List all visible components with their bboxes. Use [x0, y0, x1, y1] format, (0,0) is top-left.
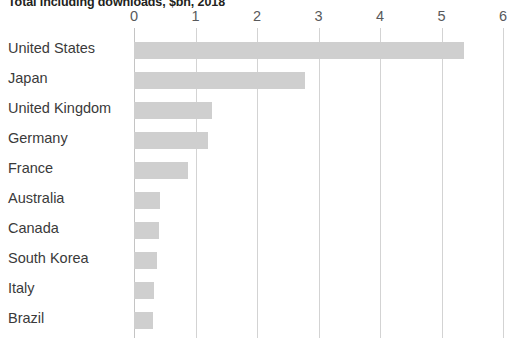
bar	[134, 312, 153, 329]
bar	[134, 72, 305, 89]
bar-row: Japan	[0, 66, 505, 96]
category-label: South Korea	[8, 250, 89, 266]
bar-row: South Korea	[0, 246, 505, 276]
category-label: Japan	[8, 70, 48, 86]
bar	[134, 102, 212, 119]
bar-row: United States	[0, 36, 505, 66]
category-label: Italy	[8, 280, 35, 296]
bar	[134, 222, 159, 239]
category-label: Germany	[8, 130, 68, 146]
category-label: France	[8, 160, 53, 176]
bar-row: Italy	[0, 276, 505, 306]
bar	[134, 192, 160, 209]
bar-row: Brazil	[0, 306, 505, 336]
category-label: United States	[8, 40, 95, 56]
category-label: Canada	[8, 220, 59, 236]
bar	[134, 132, 208, 149]
bar	[134, 252, 157, 269]
bar	[134, 162, 188, 179]
bar	[134, 42, 464, 59]
bar-row: Germany	[0, 126, 505, 156]
category-label: Australia	[8, 190, 64, 206]
bar-row: United Kingdom	[0, 96, 505, 126]
bar-row: Canada	[0, 216, 505, 246]
bar	[134, 282, 154, 299]
bar-row: France	[0, 156, 505, 186]
bar-row: Australia	[0, 186, 505, 216]
category-label: United Kingdom	[8, 100, 111, 116]
category-label: Brazil	[8, 310, 44, 326]
